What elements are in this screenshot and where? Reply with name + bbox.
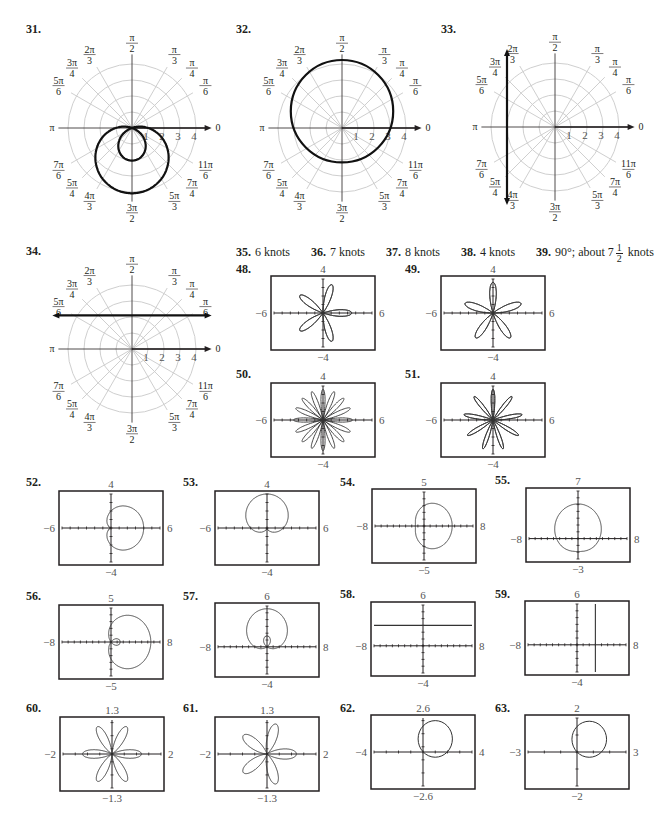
svg-text:2: 2 (340, 213, 345, 224)
svg-text:11π: 11π (198, 159, 213, 170)
svg-text:5: 5 (421, 476, 427, 488)
graph-57: 6−4−88 (199, 590, 329, 690)
svg-text:5π: 5π (592, 189, 602, 200)
svg-text:2: 2 (130, 434, 135, 445)
svg-text:3: 3 (382, 201, 387, 212)
svg-text:4: 4 (401, 130, 407, 142)
problem-number-49: 49. (405, 262, 420, 277)
svg-text:7π: 7π (54, 380, 64, 391)
graph-50: 4−4−66 (255, 370, 385, 470)
svg-text:π: π (189, 57, 194, 68)
problem-number-34: 34. (26, 244, 41, 259)
svg-text:4: 4 (612, 187, 617, 198)
graph-60: 1.3−1.3−22 (44, 704, 173, 804)
graph-52: 4−4−66 (43, 478, 173, 578)
svg-text:−2: −2 (44, 748, 56, 760)
svg-text:π: π (612, 56, 617, 67)
svg-text:1: 1 (353, 130, 359, 142)
svg-text:5π: 5π (67, 177, 77, 188)
svg-text:π: π (203, 296, 208, 307)
problem-number-57: 57. (183, 589, 198, 604)
svg-text:π: π (129, 253, 134, 264)
svg-text:6: 6 (56, 391, 61, 402)
svg-text:5π: 5π (264, 75, 274, 86)
svg-text:−8: −8 (355, 640, 367, 652)
svg-text:4: 4 (189, 188, 194, 199)
svg-text:6: 6 (626, 85, 631, 96)
svg-text:2: 2 (582, 129, 588, 141)
svg-text:−6: −6 (255, 307, 267, 319)
polar-graph-31: 0π6π4π3π22π33π45π6π7π65π44π33π25π37π411π… (49, 32, 220, 224)
svg-text:4π: 4π (85, 411, 95, 422)
svg-text:6: 6 (379, 414, 385, 426)
svg-text:3: 3 (172, 55, 177, 66)
svg-text:4: 4 (191, 130, 197, 142)
svg-text:3: 3 (172, 201, 177, 212)
svg-text:π: π (49, 122, 54, 133)
svg-text:4: 4 (399, 68, 404, 79)
svg-text:5π: 5π (277, 177, 287, 188)
svg-text:3: 3 (382, 55, 387, 66)
svg-text:8: 8 (634, 533, 640, 545)
svg-text:8: 8 (323, 641, 329, 653)
problem-number-48: 48. (236, 262, 251, 277)
svg-text:4: 4 (108, 478, 114, 490)
svg-text:4: 4 (189, 409, 194, 420)
svg-text:2: 2 (130, 43, 135, 54)
svg-text:3: 3 (510, 200, 515, 211)
svg-text:4: 4 (70, 409, 75, 420)
svg-text:−5: −5 (418, 564, 430, 576)
svg-text:4: 4 (189, 68, 194, 79)
svg-text:0: 0 (639, 121, 644, 132)
svg-text:−3: −3 (572, 563, 584, 575)
svg-text:4: 4 (614, 129, 620, 141)
graph-48: 4−4−66 (255, 263, 385, 363)
svg-text:4: 4 (399, 188, 404, 199)
svg-text:4: 4 (612, 67, 617, 78)
svg-text:−2.6: −2.6 (413, 790, 433, 802)
graph-54: 5−5−88 (356, 476, 486, 576)
svg-text:8: 8 (167, 636, 173, 648)
svg-text:π: π (626, 74, 631, 85)
svg-text:11π: 11π (198, 380, 213, 391)
svg-text:3: 3 (633, 746, 639, 758)
svg-text:−2: −2 (199, 748, 211, 760)
problem-number-32: 32. (236, 22, 251, 37)
problem-number-52: 52. (26, 475, 41, 490)
svg-text:3: 3 (172, 422, 177, 433)
problem-number-58: 58. (340, 587, 355, 602)
svg-text:4π: 4π (85, 190, 95, 201)
svg-text:7π: 7π (187, 177, 197, 188)
svg-text:3π: 3π (127, 423, 137, 434)
svg-text:−8: −8 (43, 636, 55, 648)
svg-text:4: 4 (493, 187, 498, 198)
svg-text:−5: −5 (105, 680, 117, 692)
svg-text:−6: −6 (199, 522, 211, 534)
graph-61: 1.3−1.3−22 (199, 704, 328, 804)
polar-graph-32: 0π6π4π3π22π33π45π6π7π65π44π33π25π37π411π… (259, 32, 430, 224)
svg-text:7π: 7π (54, 159, 64, 170)
svg-text:5π: 5π (477, 74, 487, 85)
svg-text:6: 6 (266, 86, 271, 97)
svg-text:6: 6 (479, 169, 484, 180)
svg-text:5π: 5π (54, 75, 64, 86)
svg-text:3: 3 (87, 55, 92, 66)
svg-text:π: π (472, 121, 477, 132)
graph-55: 7−3−88 (510, 475, 640, 575)
svg-text:π: π (399, 57, 404, 68)
svg-text:1.3: 1.3 (105, 704, 119, 716)
polar-graph-33: 0π6π4π3π22π33π45π6π7π65π44π33π25π37π411π… (472, 31, 643, 223)
svg-text:3π: 3π (337, 202, 347, 213)
problem-number-56: 56. (26, 589, 41, 604)
svg-text:3: 3 (172, 276, 177, 287)
svg-text:2π: 2π (85, 44, 95, 55)
svg-text:2: 2 (553, 212, 558, 223)
svg-text:3: 3 (595, 54, 600, 65)
polar-graph-34: 0π6π4π3π22π33π45π6π7π65π44π33π25π37π411π… (49, 253, 220, 445)
problem-number-50: 50. (236, 367, 251, 382)
svg-text:4: 4 (280, 188, 285, 199)
svg-text:2: 2 (168, 748, 174, 760)
svg-text:π: π (203, 75, 208, 86)
svg-text:6: 6 (379, 307, 385, 319)
problem-number-54: 54. (340, 475, 355, 490)
